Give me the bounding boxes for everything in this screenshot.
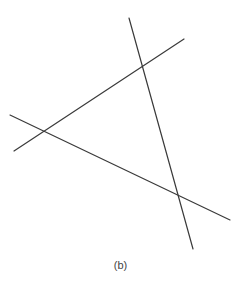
three-lines-diagram	[0, 0, 241, 281]
rising-line	[14, 39, 184, 151]
falling-line	[10, 115, 230, 220]
figure-caption: (b)	[0, 259, 241, 271]
steep-line	[129, 18, 193, 249]
